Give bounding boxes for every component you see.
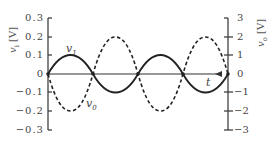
right-tick-label: −2 (234, 106, 249, 116)
x-axis-arrow-icon (215, 71, 222, 77)
axis-title-sub: o (261, 37, 269, 41)
left-tick-label: −0.2 (4, 106, 44, 116)
axis-title-var: v (7, 47, 18, 53)
left-tick-label: −0.1 (4, 87, 44, 97)
right-tick-label: 2 (237, 32, 243, 42)
left-tick-label: −0.3 (4, 125, 44, 135)
left-axis-title: vi [V] (7, 13, 21, 53)
right-tick-label: 3 (237, 13, 243, 23)
right-tick-label: 1 (237, 50, 243, 60)
right-tick-label: −3 (234, 125, 249, 135)
axis-title-sub: i (13, 45, 21, 47)
t-axis-label: t (206, 78, 210, 88)
right-tick-label: 0 (237, 69, 243, 79)
chart: 0.3 0.2 0.1 0 −0.1 −0.2 −0.3 3 2 1 0 −1 … (0, 0, 276, 142)
annotation-sub: 0 (92, 104, 96, 112)
axis-title-unit: [V] (7, 27, 18, 45)
annotation-sub: 1 (72, 49, 76, 57)
right-axis-title: vo [V] (255, 7, 269, 47)
axis-title-var: v (255, 41, 266, 47)
v0-annotation: v0 (86, 99, 97, 113)
axis-title-unit: [V] (255, 19, 266, 37)
left-tick-label: 0 (4, 69, 44, 79)
right-tick-label: −1 (234, 87, 249, 97)
v1-annotation: v1 (66, 44, 77, 58)
